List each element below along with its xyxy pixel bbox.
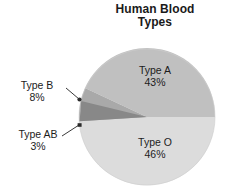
pie-chart-figure: Human Blood Types Type A 43% Type O 46% … (0, 0, 225, 192)
pie-label-type-b: Type B 8% (6, 79, 68, 103)
pie-label-type-o: Type O 46% (126, 136, 184, 160)
pie-label-type-ab-name: Type AB (0, 128, 76, 140)
leader-dot-type-b (77, 97, 81, 101)
pie-label-type-ab-value: 3% (0, 140, 76, 152)
pie-label-type-o-value: 46% (126, 148, 184, 160)
pie-label-type-a: Type A 43% (126, 64, 184, 88)
pie-label-type-ab: Type AB 3% (0, 128, 76, 152)
pie-label-type-o-name: Type O (126, 136, 184, 148)
leader-dot-type-ab (78, 123, 82, 127)
pie-label-type-b-name: Type B (6, 79, 68, 91)
pie-label-type-b-value: 8% (6, 91, 68, 103)
pie-label-type-a-name: Type A (126, 64, 184, 76)
pie-label-type-a-value: 43% (126, 76, 184, 88)
